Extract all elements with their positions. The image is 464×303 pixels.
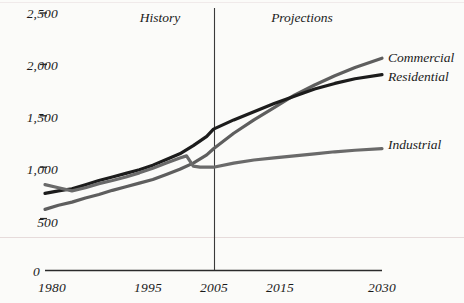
chart-container: 2,500 2,000 1,500 1,000 500 0 1980 1995 … bbox=[0, 0, 464, 303]
series-line-commercial bbox=[45, 58, 382, 209]
series-line-residential bbox=[45, 75, 382, 194]
series-line-industrial bbox=[45, 149, 382, 191]
series-layer bbox=[45, 58, 382, 209]
y-tick-marks bbox=[40, 13, 47, 219]
chart-plot-area bbox=[0, 0, 464, 303]
axes bbox=[40, 8, 382, 271]
